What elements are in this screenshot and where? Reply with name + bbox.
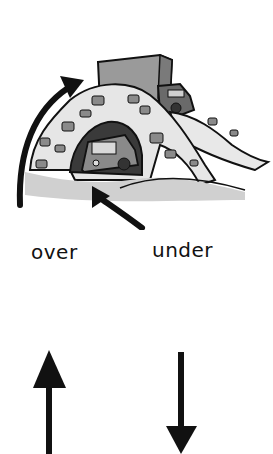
label-over: over (31, 240, 78, 264)
down-arrow-icon (166, 352, 197, 454)
bridge-illustration (0, 0, 273, 230)
label-under: under (152, 238, 213, 262)
arrows-row (0, 330, 273, 454)
up-arrow-icon (33, 350, 66, 454)
